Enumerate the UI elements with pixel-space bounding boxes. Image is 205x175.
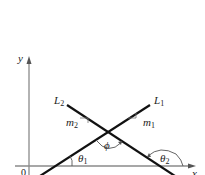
phi-label: ϕ [104, 140, 110, 151]
y-axis [27, 56, 32, 175]
x-axis-label: x [192, 168, 197, 175]
y-axis-arrow-icon [27, 56, 32, 64]
origin-label: 0 [21, 168, 26, 175]
y-axis-label: y [18, 53, 23, 64]
theta2-label: θ2 [160, 153, 169, 166]
line-L2-label: L2 [54, 95, 64, 108]
slope-m2-label: m2 [66, 117, 78, 130]
line-L1 [40, 105, 150, 175]
line-L1-label: L1 [154, 95, 164, 108]
diagram-canvas [0, 0, 205, 175]
theta1-label: θ1 [78, 153, 87, 166]
angle-between-lines-diagram: y 0 x L2 L1 m2 m1 ϕ θ1 θ2 [0, 0, 205, 175]
slope-m1-label: m1 [143, 117, 155, 130]
